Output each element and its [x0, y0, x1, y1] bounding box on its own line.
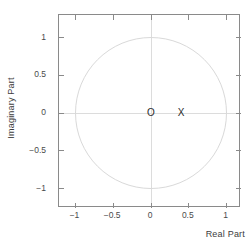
y-tick-label-0-5: 0.5 [34, 70, 46, 79]
x-tick-marks-top [76, 15, 227, 20]
y-tick-label--1: −1 [36, 183, 46, 192]
y-axis-title: Imaginary Part [6, 63, 16, 153]
x-tick-marks-bottom [76, 203, 227, 208]
x-tick-label-0: 0 [148, 211, 153, 220]
x-tick-label-0-5: 0.5 [182, 211, 194, 220]
y-tick-marks-left [59, 38, 64, 189]
y-tick-label--0-5: −0.5 [29, 146, 46, 155]
y-tick-label-1: 1 [41, 32, 46, 41]
x-tick-label--1: −1 [70, 211, 80, 220]
y-tick-label-0: 0 [41, 108, 46, 117]
pole-zero-plot-figure: O X −1 −0.5 0 0.5 1 1 0.5 0 −0.5 −1 Real… [0, 0, 251, 249]
x-tick-label--0-5: −0.5 [104, 211, 121, 220]
zero-marker[interactable]: O [147, 108, 155, 118]
y-tick-marks-right [236, 38, 241, 189]
plot-area: O X [58, 14, 240, 207]
x-axis-title: Real Part [206, 229, 245, 239]
x-tick-label-1: 1 [223, 211, 228, 220]
pole-marker[interactable]: X [178, 108, 185, 118]
